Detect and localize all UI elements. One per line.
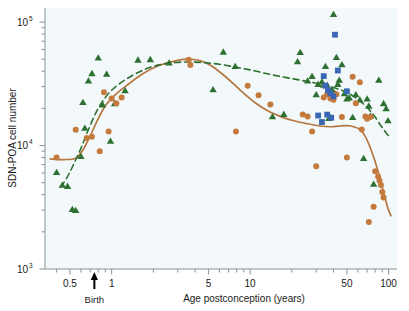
data-point-circle: [106, 128, 112, 134]
data-point-circle: [305, 113, 311, 119]
data-point-circle: [344, 155, 350, 161]
x-tick-label-5: 100: [380, 278, 397, 289]
data-point-circle: [89, 134, 95, 140]
data-point-circle: [113, 100, 119, 106]
data-point-circle: [186, 57, 192, 63]
data-point-square: [332, 32, 338, 38]
data-point-circle: [245, 83, 251, 89]
plot-area-background: [45, 8, 397, 269]
y-tick-label-exponent-2: 5: [29, 15, 33, 22]
data-point-square: [315, 113, 321, 119]
data-point-circle: [73, 127, 79, 133]
y-tick-label-exponent-0: 3: [29, 262, 33, 269]
data-point-circle: [372, 168, 378, 174]
data-point-square: [321, 73, 327, 79]
y-tick-label-1: 10: [17, 140, 29, 151]
data-point-circle: [187, 62, 193, 68]
birth-label: Birth: [85, 294, 105, 305]
sdn-poa-scatter-chart: 103104105 0.5151050100 Birth SDN-POA cel…: [0, 0, 409, 311]
x-tick-label-2: 5: [206, 278, 212, 289]
data-point-circle: [378, 182, 384, 188]
data-point-circle: [101, 89, 107, 95]
y-tick-label-2: 10: [17, 17, 29, 28]
data-point-square: [319, 119, 325, 125]
figure-container: 103104105 0.5151050100 Birth SDN-POA cel…: [0, 0, 409, 311]
data-point-square: [328, 115, 334, 121]
data-point-circle: [357, 79, 363, 85]
data-point-circle: [381, 194, 387, 200]
data-point-square: [335, 68, 341, 74]
data-point-circle: [309, 128, 315, 134]
data-point-circle: [267, 101, 273, 107]
data-point-circle: [84, 135, 90, 141]
x-tick-label-3: 10: [245, 278, 257, 289]
x-tick-label-0: 0.5: [63, 278, 77, 289]
x-axis-title: Age postconception (years): [183, 293, 305, 304]
data-point-circle: [353, 100, 359, 106]
x-axis-minor-ticks: [57, 269, 383, 273]
data-point-circle: [379, 189, 385, 195]
data-point-circle: [371, 204, 377, 210]
data-point-circle: [350, 74, 356, 80]
data-point-circle: [233, 128, 239, 134]
y-axis-title: SDN-POA cell number: [7, 88, 18, 188]
data-point-circle: [119, 94, 125, 100]
data-point-circle: [256, 92, 262, 98]
data-point-circle: [313, 163, 319, 169]
x-tick-label-1: 1: [109, 278, 115, 289]
y-tick-label-0: 10: [17, 264, 29, 275]
data-point-circle: [359, 126, 365, 132]
data-point-circle: [366, 219, 372, 225]
x-tick-label-4: 50: [341, 278, 353, 289]
data-point-circle: [97, 148, 103, 154]
data-point-square: [344, 88, 350, 94]
data-point-square: [331, 94, 337, 100]
data-point-circle: [54, 155, 60, 161]
data-point-circle: [367, 114, 373, 120]
data-point-square: [325, 87, 331, 93]
data-point-circle: [339, 114, 345, 120]
data-point-circle: [109, 96, 115, 102]
y-tick-label-exponent-1: 4: [29, 138, 33, 145]
